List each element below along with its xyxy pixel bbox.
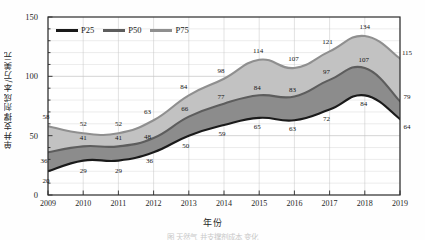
legend-item-p75[interactable]: P75	[150, 25, 188, 35]
data-label-p50-2010: 41	[80, 134, 87, 142]
data-label-p75-2010: 52	[80, 120, 87, 128]
data-label-p75-2011: 52	[115, 120, 122, 128]
data-label-p25-2010: 29	[80, 167, 87, 175]
data-label-p50-2018: 107	[359, 56, 370, 64]
data-label-p50-2012: 48	[144, 133, 151, 141]
x-axis-title: 年份	[0, 216, 425, 229]
legend-label-p50: P50	[128, 25, 141, 35]
legend-swatch-p50	[103, 29, 125, 32]
legend-swatch-p25	[56, 29, 78, 32]
data-label-p25-2017: 72	[323, 115, 330, 123]
data-label-p50-2019: 79	[404, 93, 411, 101]
data-label-p50-2014: 77	[218, 93, 225, 101]
data-label-p75-2016: 107	[288, 55, 299, 63]
data-label-p25-2013: 50	[182, 142, 189, 150]
legend-item-p25[interactable]: P25	[56, 25, 94, 35]
data-label-p75-2019: 115	[402, 49, 412, 57]
chart-figure: 单井支撑剂成本/万美元 050100150 P25P50P75 2009201	[0, 0, 425, 240]
data-label-p25-2012: 36	[146, 157, 153, 165]
data-label-p50-2015: 84	[254, 84, 261, 92]
data-label-p25-2009: 20	[43, 177, 50, 185]
data-label-p25-2014: 59	[219, 130, 226, 138]
data-label-p50-2011: 41	[115, 134, 122, 142]
data-label-p25-2015: 65	[254, 123, 261, 131]
data-label-p50-2013: 66	[181, 105, 188, 113]
data-label-p75-2009: 58	[43, 113, 50, 121]
data-label-p50-2009: 36	[41, 157, 48, 165]
data-label-p75-2012: 63	[144, 108, 151, 116]
figure-caption-remnant: 图 天然气 井支撑剂成本 变化	[0, 231, 425, 240]
data-label-p25-2019: 64	[404, 123, 411, 131]
chart-legend: P25P50P75	[56, 25, 189, 35]
data-label-p75-2013: 84	[180, 83, 187, 91]
data-label-p25-2018: 84	[360, 100, 367, 108]
legend-label-p75: P75	[175, 25, 188, 35]
data-label-p25-2016: 63	[289, 125, 296, 133]
data-label-p50-2016: 83	[289, 86, 296, 94]
legend-swatch-p75	[150, 29, 172, 32]
legend-label-p25: P25	[81, 25, 94, 35]
data-label-p50-2017: 97	[323, 68, 330, 76]
data-label-p25-2011: 29	[115, 167, 122, 175]
data-label-p75-2015: 114	[253, 47, 263, 55]
data-point-labels: 5852526384981141071211341153641414866778…	[0, 0, 425, 240]
data-label-p75-2017: 121	[322, 38, 333, 46]
legend-item-p50[interactable]: P50	[103, 25, 141, 35]
data-label-p75-2018: 134	[360, 23, 371, 31]
data-label-p75-2014: 98	[218, 67, 225, 75]
